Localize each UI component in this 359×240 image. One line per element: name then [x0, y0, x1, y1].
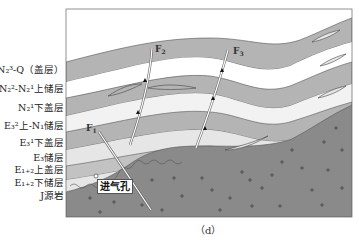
vent-marker-icon — [94, 174, 98, 178]
legend-label: E₁₊₂下储层 — [14, 177, 64, 189]
figure-caption: （d） — [195, 222, 221, 237]
legend-label: E₃²上-N₁储层 — [4, 120, 64, 132]
vent-label: 进气孔 — [97, 179, 133, 194]
legend-label: N₂³-Q（盖层） — [0, 64, 64, 76]
legend-label: N₂²-N₂¹上储层 — [0, 83, 64, 95]
legend-label: E₃储层 — [33, 152, 64, 164]
geologic-cross-section: F1 F2 F3 N₂³-Q（盖层） N₂²-N₂¹上储层 N₂¹下盖层 E₃²… — [0, 0, 359, 240]
legend-label: E₁₊₂上盖层 — [14, 164, 64, 176]
legend-label: J源岩 — [40, 190, 64, 202]
legend-label: N₂¹下盖层 — [18, 102, 64, 114]
legend-label: E₃¹下盖层 — [19, 137, 64, 149]
